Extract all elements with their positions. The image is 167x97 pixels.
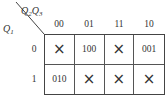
cell-0-10: 001 (134, 35, 164, 65)
cell-0-00: × (45, 35, 75, 65)
column-header-11: 11 (104, 19, 134, 29)
column-header-10: 10 (134, 19, 164, 29)
column-variable-label: Q2Q3 (21, 6, 42, 19)
cell-0-11: × (105, 35, 135, 65)
cell-1-11: × (105, 65, 135, 95)
column-header-00: 00 (44, 19, 74, 29)
cell-1-10: × (134, 65, 164, 95)
row-header-1: 1 (28, 74, 40, 84)
row-variable-label: Q1 (3, 24, 14, 37)
column-header-01: 01 (74, 19, 104, 29)
col-var-q3-sub: 3 (39, 10, 43, 18)
cell-1-01: × (75, 65, 105, 95)
cell-1-00: 010 (45, 65, 75, 95)
row-header-0: 0 (28, 44, 40, 54)
kmap-grid: × 100 × 001 010 × × × (44, 34, 165, 95)
cell-0-01: 100 (75, 35, 105, 65)
row-var-q1-sub: 1 (10, 28, 14, 36)
col-var-q3: Q (32, 5, 39, 16)
